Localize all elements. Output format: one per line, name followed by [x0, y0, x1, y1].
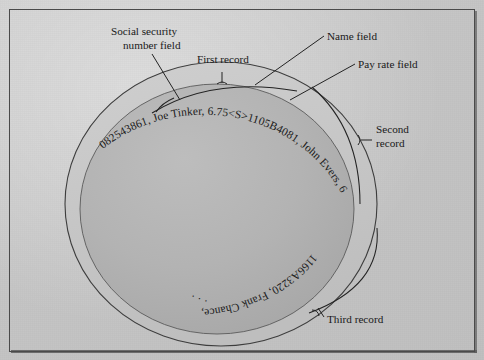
- label-first-record: First record: [197, 53, 249, 65]
- disc-inner-surface: [80, 84, 354, 334]
- figure-artwork: 082543861, Joe Tinker, 6.75<S>1105B4081,…: [0, 0, 484, 360]
- label-name-field: Name field: [327, 30, 377, 42]
- label-second-record-line2: record: [376, 137, 405, 149]
- label-pay-rate-field: Pay rate field: [358, 58, 418, 70]
- label-ssn-field-line2: number field: [123, 39, 181, 51]
- label-second-record-line1: Second: [376, 123, 409, 135]
- label-ssn-field-line1: Social security: [111, 25, 178, 37]
- figure-root: 082543861, Joe Tinker, 6.75<S>1105B4081,…: [0, 0, 484, 360]
- label-third-record: Third record: [327, 313, 384, 325]
